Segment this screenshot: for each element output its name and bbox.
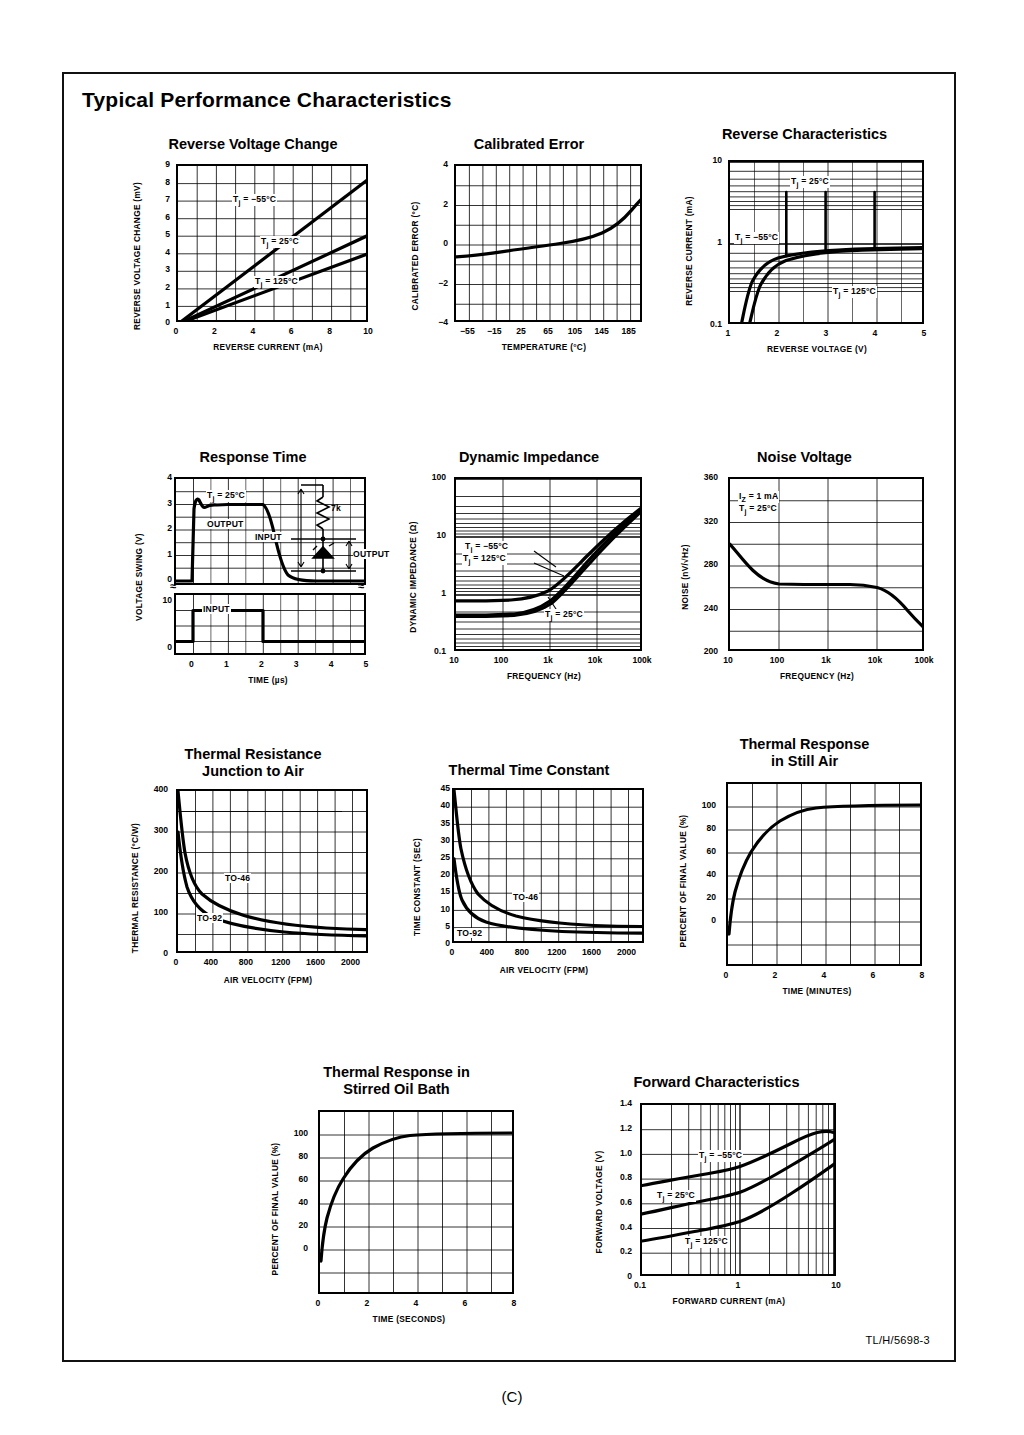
- x-axis-label: TIME (µs): [148, 675, 388, 685]
- x-axis-label: TIME (MINUTES): [697, 986, 937, 996]
- series-label-tj-m55: Tj = −55°C: [734, 232, 779, 244]
- series-label-to46: TO-46: [512, 892, 539, 902]
- y-tick-labels: 9876 5432 10: [142, 156, 172, 356]
- y-tick-labels: 432 10 100: [144, 469, 174, 684]
- series-label-to92: TO-92: [196, 913, 223, 923]
- y-tick-labels: 360320280 240200: [690, 469, 720, 684]
- y-tick-labels: 1008060 40200: [688, 773, 718, 988]
- chart-thermal-response-stirred-oil-bath: Thermal Response in Stirred Oil Bath PER…: [264, 1064, 529, 1316]
- chart-title-line1: Thermal Resistance: [128, 746, 378, 763]
- plot-area: [318, 1110, 514, 1294]
- x-axis-label: REVERSE CURRENT (mA): [148, 342, 388, 352]
- plot-area: [454, 164, 642, 322]
- chart-reverse-voltage-change: Reverse Voltage Change REVERSE VOLTAGE C…: [128, 136, 378, 356]
- chart-title: Thermal Resistance Junction to Air: [128, 746, 378, 780]
- y-tick-labels: 400300200 1000: [140, 783, 170, 993]
- page-title: Typical Performance Characteristics: [82, 88, 452, 112]
- label-resistor-7k: 7k: [331, 503, 341, 513]
- chart-title: Thermal Time Constant: [404, 762, 654, 779]
- axis-break-mark: ≈: [170, 581, 176, 592]
- annotation-iz: IZ = 1 mA: [738, 491, 779, 503]
- chart-title-line1: Thermal Response: [672, 736, 937, 753]
- chart-reverse-characteristics: Reverse Characteristics REVERSE CURRENT …: [672, 126, 937, 356]
- chart-title-line2: in Still Air: [672, 753, 937, 770]
- series-label-tj-25: Tj = 25°C: [206, 490, 246, 502]
- x-axis-label: FREQUENCY (Hz): [697, 671, 937, 681]
- chart-title-line2: Junction to Air: [128, 763, 378, 780]
- chart-title: Reverse Voltage Change: [128, 136, 378, 153]
- chart-title: Reverse Characteristics: [672, 126, 937, 143]
- x-axis-label: AIR VELOCITY (FPM): [148, 975, 388, 985]
- x-axis-label: TIME (SECONDS): [289, 1314, 529, 1324]
- chart-title: Dynamic Impedance: [404, 449, 654, 466]
- chart-forward-characteristics: Forward Characteristics FORWARD VOLTAGE …: [584, 1074, 849, 1309]
- chart-noise-voltage: Noise Voltage NOISE (nV/√Hz) 360320280 2…: [672, 449, 937, 684]
- label-output: OUTPUT: [206, 519, 245, 529]
- y-tick-labels: 45403530 25201510 50: [422, 782, 452, 992]
- y-tick-labels: 1001010.1: [418, 469, 448, 684]
- y-tick-labels: 1008060 40200: [280, 1101, 310, 1316]
- x-axis-label: FREQUENCY (Hz): [424, 671, 664, 681]
- chart-response-time: Response Time VOLTAGE SWING (V) 432 10 1…: [128, 449, 378, 684]
- series-label-tj-m55: Tj = −55°C: [232, 194, 277, 206]
- y-tick-labels: 420 −2−4: [420, 156, 450, 356]
- series-label-tj-m55: Tj = −55°C: [464, 541, 509, 553]
- chart-title: Thermal Response in Still Air: [672, 736, 937, 770]
- chart-thermal-resistance-junction-to-air: Thermal Resistance Junction to Air THERM…: [128, 746, 378, 993]
- series-label-tj-m55: Tj = −55°C: [698, 1150, 743, 1162]
- chart-title: Thermal Response in Stirred Oil Bath: [264, 1064, 529, 1098]
- plot-area: [176, 789, 368, 953]
- plot-area: [726, 782, 922, 966]
- series-label-tj-125: Tj = 125°C: [832, 286, 877, 298]
- series-label-tj-125: Tj = 125°C: [254, 276, 299, 288]
- datasheet-page-frame: Typical Performance Characteristics Reve…: [62, 72, 956, 1362]
- series-label-to46: TO-46: [224, 873, 251, 883]
- series-label-tj-125: Tj = 125°C: [462, 553, 507, 565]
- y-tick-labels: 1.41.21.00.8 0.60.40.20: [604, 1094, 634, 1309]
- annotation-tj-25: Tj = 25°C: [738, 503, 778, 515]
- series-label-tj-25: Tj = 25°C: [544, 609, 584, 621]
- x-axis-label: AIR VELOCITY (FPM): [424, 965, 664, 975]
- chart-title-line1: Thermal Response in: [264, 1064, 529, 1081]
- chart-title: Calibrated Error: [404, 136, 654, 153]
- chart-dynamic-impedance: Dynamic Impedance DYNAMIC IMPEDANCE (Ω) …: [404, 449, 654, 684]
- series-label-tj-25: Tj = 25°C: [260, 236, 300, 248]
- y-tick-labels: 1010.1: [694, 146, 724, 356]
- chart-thermal-response-still-air: Thermal Response in Still Air PERCENT OF…: [672, 736, 937, 988]
- plot-area: [452, 788, 644, 943]
- series-label-to92: TO-92: [456, 928, 483, 938]
- chart-title-line2: Stirred Oil Bath: [264, 1081, 529, 1098]
- page-footer-marker: (C): [0, 1388, 1024, 1405]
- chart-title: Forward Characteristics: [584, 1074, 849, 1091]
- chart-title: Noise Voltage: [672, 449, 937, 466]
- series-label-tj-125: Tj = 125°C: [684, 1236, 729, 1248]
- label-input: INPUT: [202, 604, 231, 614]
- series-label-tj-25: Tj = 25°C: [656, 1190, 696, 1202]
- x-axis-label: REVERSE VOLTAGE (V): [697, 344, 937, 354]
- label-output-inset: OUTPUT: [353, 549, 390, 559]
- document-code: TL/H/5698-3: [866, 1334, 930, 1346]
- x-axis-label: TEMPERATURE (°C): [424, 342, 664, 352]
- chart-calibrated-error: Calibrated Error CALIBRATED ERROR (°C) 4…: [404, 136, 654, 356]
- plot-area-lower: [174, 593, 366, 655]
- chart-title: Response Time: [128, 449, 378, 466]
- chart-thermal-time-constant: Thermal Time Constant TIME CONSTANT (SEC…: [404, 762, 654, 992]
- series-label-tj-25: Tj = 25°C: [790, 176, 830, 188]
- label-input-inset: INPUT: [255, 532, 282, 542]
- x-axis-label: FORWARD CURRENT (mA): [609, 1296, 849, 1306]
- inset-test-circuit: 7k INPUT OUTPUT: [261, 483, 366, 583]
